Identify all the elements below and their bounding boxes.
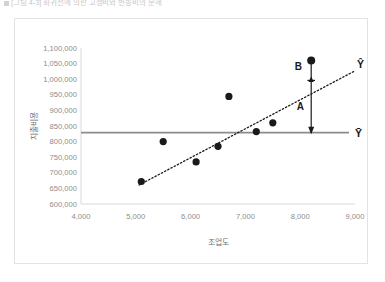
x-tick-label: 9,000 [345,212,364,221]
caption-bullet-icon [4,1,9,6]
chart-container: 1,100,000 1,050,000 1,000,000 950,000 90… [14,18,368,264]
annotation-label-b: B [295,61,302,72]
mean-line-label: Ȳ [355,127,362,139]
annotation-label-a: A [297,101,304,112]
caption-text: [그림 4-3] 회귀선에 의한 고정비와 변동비의 분해 [11,0,162,7]
x-tick-label: 6,000 [181,212,200,221]
data-point [269,119,276,126]
figure-caption: [그림 4-3] 회귀선에 의한 고정비와 변동비의 분해 [4,0,162,7]
y-tick-label: 1,100,000 [43,44,77,53]
y-tick-label: 650,000 [50,184,77,193]
data-point [138,178,145,185]
data-point [214,143,221,150]
data-point [193,158,200,165]
y-axis-title: 지출비용 [29,112,39,140]
y-tick-label: 900,000 [50,106,77,115]
y-tick-label: 1,050,000 [43,59,77,68]
data-point [160,138,167,145]
x-tick-label: 8,000 [291,212,310,221]
scatter-chart: 1,100,000 1,050,000 1,000,000 950,000 90… [15,19,369,265]
y-tick-label: 800,000 [50,137,77,146]
y-tick-label: 1,000,000 [43,75,77,84]
x-tick-label: 5,000 [126,212,145,221]
deviation-arrow-head-up [309,77,314,82]
x-tick-label: 7,000 [236,212,255,221]
data-point [307,57,315,65]
y-tick-label: 700,000 [50,168,77,177]
regression-line-label: Ŷ [357,58,364,70]
x-tick-label: 4,000 [71,212,90,221]
y-tick-label: 600,000 [50,200,77,209]
x-axis-title: 조업도 [208,238,229,247]
y-tick-label: 750,000 [50,153,77,162]
y-tick-label: 950,000 [50,90,77,99]
y-tick-label: 850,000 [50,122,77,131]
regression-line [139,71,355,185]
data-point [225,93,232,100]
data-point [253,128,260,135]
